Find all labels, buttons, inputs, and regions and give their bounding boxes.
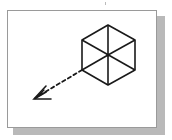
figure-canvas [0, 0, 172, 140]
cube-edge-ur-center [108, 40, 135, 55]
cube-center-point [106, 53, 109, 56]
isometric-cube-icon [82, 25, 135, 85]
view-direction-arrow-icon [34, 70, 82, 99]
cube-edge-center-ll [82, 55, 108, 70]
